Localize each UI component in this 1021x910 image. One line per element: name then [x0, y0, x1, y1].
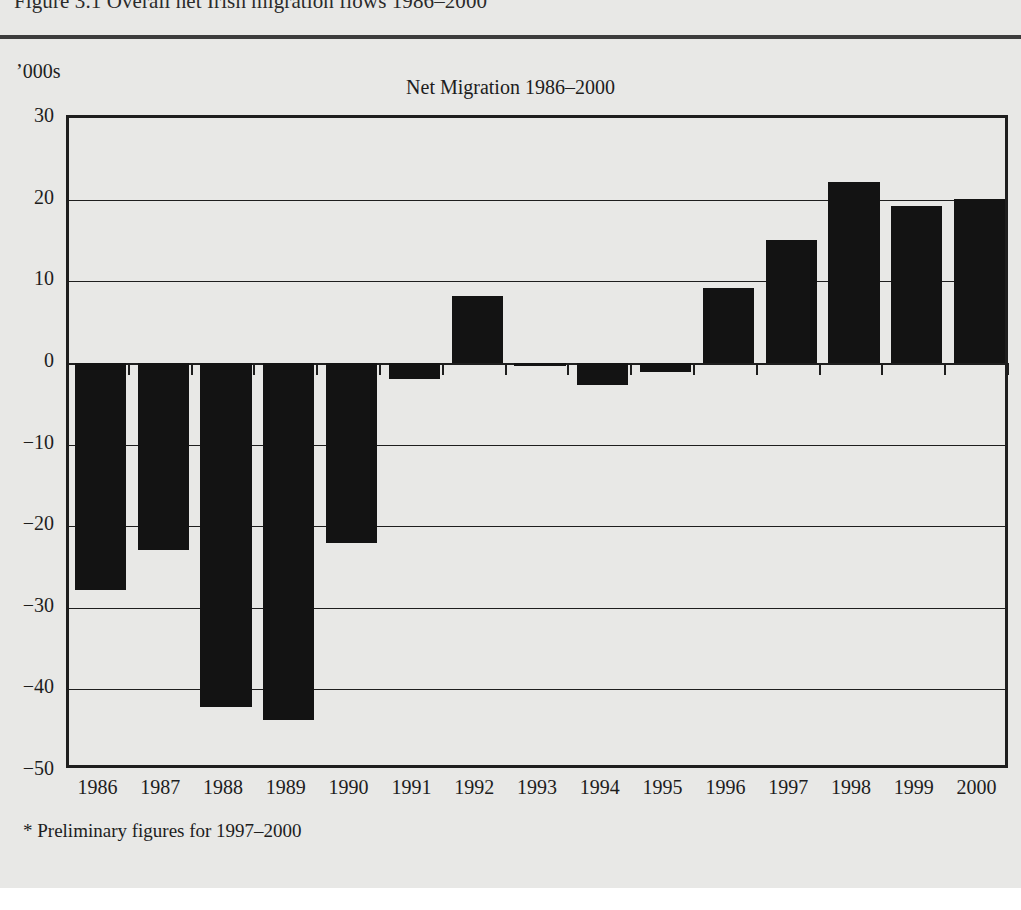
- footnote: * Preliminary figures for 1997–2000: [23, 820, 302, 842]
- y-axis-tick-label: 30: [0, 104, 54, 127]
- x-axis-tick: [379, 363, 381, 375]
- bar-2000: [954, 199, 1005, 363]
- figure-page: Figure 3.1 Overall net Irish migration f…: [0, 0, 1021, 910]
- x-axis-tick: [442, 363, 444, 375]
- plot-area: [66, 115, 1008, 768]
- y-axis-tick-label: 0: [0, 348, 54, 371]
- x-axis-tick: [944, 363, 946, 375]
- x-axis-label-2000: 2000: [957, 776, 997, 799]
- x-axis-label-1996: 1996: [705, 776, 745, 799]
- y-axis-tick-label: 20: [0, 185, 54, 208]
- x-axis-label-1998: 1998: [831, 776, 871, 799]
- x-axis-label-1999: 1999: [894, 776, 934, 799]
- y-axis-tick-label: −50: [0, 757, 54, 780]
- bottom-white-band: [0, 888, 1021, 910]
- x-axis-label-1986: 1986: [77, 776, 117, 799]
- bar-1997: [766, 240, 817, 363]
- bar-1994: [577, 363, 628, 385]
- chart-title: Net Migration 1986–2000: [0, 76, 1021, 99]
- y-axis-tick-label: −30: [0, 593, 54, 616]
- bar-1998: [828, 182, 879, 362]
- bar-1990: [326, 363, 377, 543]
- x-axis-tick: [191, 363, 193, 375]
- figure-caption: Figure 3.1 Overall net Irish migration f…: [14, 0, 487, 14]
- y-axis-tick-label: −20: [0, 512, 54, 535]
- top-rule-divider: [0, 35, 1021, 39]
- x-axis-tick: [567, 363, 569, 375]
- x-axis-tick: [253, 363, 255, 375]
- x-axis-tick: [630, 363, 632, 375]
- bar-1988: [200, 363, 251, 707]
- bar-1999: [891, 206, 942, 363]
- bar-1991: [389, 363, 440, 379]
- x-axis-label-1992: 1992: [454, 776, 494, 799]
- bar-1986: [75, 363, 126, 590]
- x-axis-label-1994: 1994: [580, 776, 620, 799]
- bar-1987: [138, 363, 189, 550]
- y-axis-tick-label: −10: [0, 430, 54, 453]
- x-axis-tick: [693, 363, 695, 375]
- x-axis-tick: [505, 363, 507, 375]
- bar-1992: [452, 296, 503, 363]
- x-axis-label-1991: 1991: [391, 776, 431, 799]
- bar-1995: [640, 363, 691, 372]
- y-axis-tick-label: 10: [0, 267, 54, 290]
- x-axis-label-1988: 1988: [203, 776, 243, 799]
- bar-1989: [263, 363, 314, 721]
- x-axis-label-1993: 1993: [517, 776, 557, 799]
- x-axis-label-1987: 1987: [140, 776, 180, 799]
- x-axis-tick: [1007, 363, 1009, 375]
- x-axis-label-1989: 1989: [266, 776, 306, 799]
- x-axis-tick: [819, 363, 821, 375]
- bar-1993: [514, 363, 565, 366]
- x-axis-tick: [756, 363, 758, 375]
- x-axis-label-1995: 1995: [643, 776, 683, 799]
- bar-1996: [703, 288, 754, 363]
- plot-inner: [69, 118, 1005, 765]
- x-axis-label-1990: 1990: [329, 776, 369, 799]
- x-axis-tick: [316, 363, 318, 375]
- x-axis-tick: [881, 363, 883, 375]
- x-axis-label-1997: 1997: [768, 776, 808, 799]
- y-axis-tick-label: −40: [0, 675, 54, 698]
- x-axis-tick: [128, 363, 130, 375]
